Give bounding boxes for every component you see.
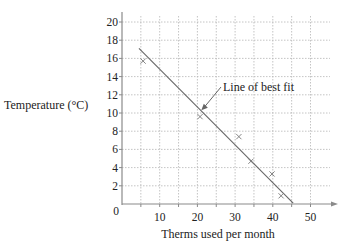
y-tick-label: 6 <box>112 143 118 155</box>
y-axis-label: Temperature (°C) <box>4 98 88 112</box>
y-tick-label: 4 <box>112 162 118 174</box>
x-marker-icon <box>269 171 274 176</box>
y-tick-label: 14 <box>107 71 119 83</box>
annotation-arrow-line <box>203 87 221 108</box>
x-marker-icon <box>197 114 202 119</box>
annotation-label: Line of best fit <box>223 80 295 94</box>
x-marker-icon <box>236 134 241 139</box>
y-tick-label: 12 <box>107 89 119 101</box>
y-tick-label: 18 <box>107 34 119 46</box>
line-of-best-fit <box>139 48 293 203</box>
x-axis-label: Therms used per month <box>161 227 275 241</box>
x-tick-label: 20 <box>192 211 204 223</box>
y-tick-label: 8 <box>112 125 118 137</box>
x-tick-label: 10 <box>154 211 166 223</box>
y-tick-label: 2 <box>112 180 118 192</box>
origin-label: 0 <box>113 205 119 217</box>
grid-lines <box>122 16 330 204</box>
x-marker-icon <box>248 159 253 164</box>
scatter-chart: 246810121416182010203040500 Line of best… <box>0 0 343 247</box>
x-tick-label: 40 <box>267 211 279 223</box>
x-marker-icon <box>278 193 283 198</box>
axes <box>119 12 338 207</box>
x-marker-icon <box>141 59 146 64</box>
y-tick-label: 16 <box>107 52 119 64</box>
x-axis-arrow-icon <box>331 202 338 207</box>
tick-labels: 246810121416182010203040500 <box>107 16 317 223</box>
best-fit-line <box>139 48 293 203</box>
y-tick-label: 10 <box>107 107 119 119</box>
y-tick-label: 20 <box>107 16 119 28</box>
x-tick-label: 50 <box>305 211 317 223</box>
x-tick-label: 30 <box>229 211 241 223</box>
